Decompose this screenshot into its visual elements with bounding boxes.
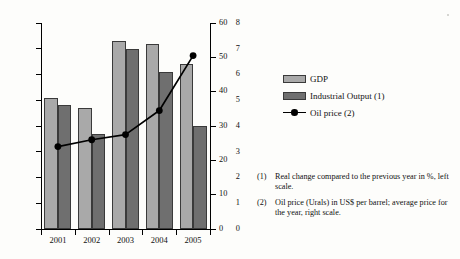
footnotes: (1) Real change compared to the previous… xyxy=(257,172,455,224)
footnote-2-text: Oil price (Urals) in US$ per barrel; ave… xyxy=(275,198,455,219)
oil-price-line-series xyxy=(0,0,240,259)
oil-price-marker-2001 xyxy=(55,143,62,150)
footnote-1-text: Real change compared to the previous yea… xyxy=(275,172,455,193)
footnote-1: (1) Real change compared to the previous… xyxy=(257,172,455,193)
legend-swatch-gdp-icon xyxy=(283,75,306,83)
legend-label-oil-price: Oil price (2) xyxy=(310,108,354,118)
legend-swatch-industrial-output-icon xyxy=(283,92,306,100)
oil-price-marker-2005 xyxy=(190,52,197,59)
chart-legend: GDP Industrial Output (1) Oil price (2) xyxy=(283,72,385,123)
scan-speck xyxy=(447,14,449,16)
oil-price-marker-2003 xyxy=(122,131,129,138)
footnote-2: (2) Oil price (Urals) in US$ per barrel;… xyxy=(257,198,455,219)
legend-label-industrial-output: Industrial Output (1) xyxy=(310,91,385,101)
legend-item-industrial-output: Industrial Output (1) xyxy=(283,89,385,102)
legend-swatch-oil-price-icon xyxy=(283,109,306,117)
footnote-2-mark: (2) xyxy=(257,198,275,219)
chart-figure: 012345678 0102030405060 2001200220032004… xyxy=(0,0,460,259)
legend-item-gdp: GDP xyxy=(283,72,385,85)
plot-area: 012345678 0102030405060 2001200220032004… xyxy=(0,0,240,259)
legend-item-oil-price: Oil price (2) xyxy=(283,106,385,119)
footnote-1-mark: (1) xyxy=(257,172,275,193)
oil-price-marker-2002 xyxy=(88,136,95,143)
oil-price-marker-2004 xyxy=(156,107,163,114)
legend-label-gdp: GDP xyxy=(310,74,328,84)
